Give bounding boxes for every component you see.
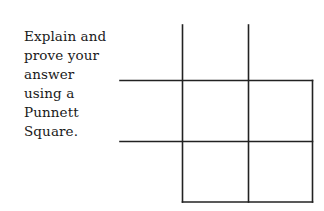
punnett-cell-2-2[interactable] xyxy=(249,142,312,202)
punnett-header-row-1[interactable] xyxy=(120,81,182,141)
punnett-cell-2-1[interactable] xyxy=(183,142,248,202)
punnett-cell-1-1[interactable] xyxy=(183,81,248,141)
punnett-square-grid xyxy=(0,0,324,211)
punnett-header-col-1[interactable] xyxy=(183,25,248,80)
punnett-header-col-2[interactable] xyxy=(249,25,312,80)
punnett-header-row-2[interactable] xyxy=(120,142,182,202)
punnett-cell-1-2[interactable] xyxy=(249,81,312,141)
